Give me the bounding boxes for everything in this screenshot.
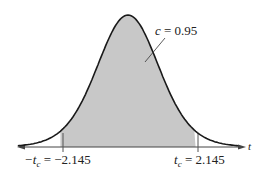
t-distribution-chart (0, 0, 266, 173)
axis-right-arrow-icon (238, 145, 246, 150)
left-critical-label: −tc = −2.145 (24, 153, 91, 169)
axis-label: t (248, 141, 251, 152)
confidence-label: c = 0.95 (155, 24, 197, 37)
right-critical-label: tc = 2.145 (174, 153, 225, 169)
